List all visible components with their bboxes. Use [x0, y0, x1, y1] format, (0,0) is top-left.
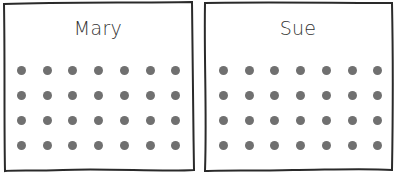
- dot: [322, 66, 331, 75]
- dot: [146, 116, 155, 125]
- panel-mary: Mary: [3, 2, 193, 174]
- dot: [43, 66, 52, 75]
- dot: [348, 116, 357, 125]
- dot: [43, 141, 52, 150]
- dot: [17, 116, 26, 125]
- dot: [245, 91, 254, 100]
- dot: [43, 91, 52, 100]
- dot: [17, 91, 26, 100]
- dot: [43, 116, 52, 125]
- dot: [245, 141, 254, 150]
- dot: [348, 91, 357, 100]
- dot: [17, 66, 26, 75]
- dot: [120, 116, 129, 125]
- dot: [348, 141, 357, 150]
- dot: [322, 116, 331, 125]
- dot: [219, 141, 228, 150]
- dot: [146, 91, 155, 100]
- dot: [245, 66, 254, 75]
- dot: [348, 66, 357, 75]
- dot: [219, 91, 228, 100]
- dot: [120, 141, 129, 150]
- dot: [146, 66, 155, 75]
- panel-title: Mary: [3, 17, 193, 39]
- panel-title: Sue: [203, 17, 393, 39]
- dot: [322, 91, 331, 100]
- dot: [245, 116, 254, 125]
- panel-sue: Sue: [203, 2, 393, 174]
- dot: [219, 116, 228, 125]
- dot: [219, 66, 228, 75]
- dot: [17, 141, 26, 150]
- dot: [322, 141, 331, 150]
- dot: [120, 91, 129, 100]
- dot: [120, 66, 129, 75]
- dot: [146, 141, 155, 150]
